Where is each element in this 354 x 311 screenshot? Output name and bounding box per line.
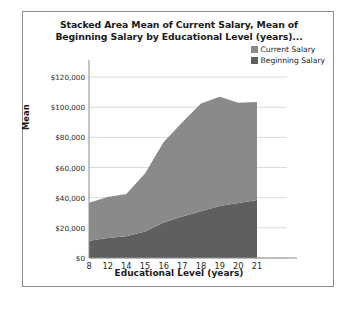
- area-plot: [23, 12, 335, 288]
- y-axis-tick-label: $120,000: [31, 73, 85, 82]
- y-axis-tick-label: $20,000: [31, 223, 85, 232]
- y-axis-tick-label: $80,000: [31, 133, 85, 142]
- x-axis-title: Educational Level (years): [23, 268, 335, 278]
- y-axis-tick-label: $40,000: [31, 193, 85, 202]
- y-axis-tick-label: $60,000: [31, 163, 85, 172]
- y-axis-tick-label: $100,000: [31, 103, 85, 112]
- y-axis-tick-label: $0: [31, 254, 85, 263]
- chart-screenshot: Stacked Area Mean of Current Salary, Mea…: [0, 0, 354, 311]
- y-axis-title: Mean: [21, 104, 31, 130]
- chart-frame: Stacked Area Mean of Current Salary, Mea…: [22, 11, 334, 287]
- plot-wrapper: Mean $0$20,000$40,000$60,000$80,000$100,…: [23, 12, 335, 288]
